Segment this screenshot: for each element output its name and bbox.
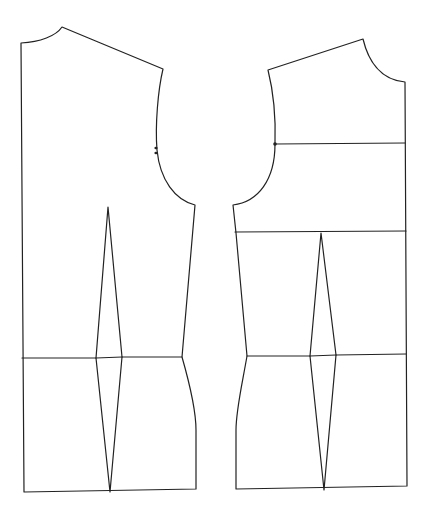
background [0,0,428,508]
pattern-canvas [0,0,428,508]
notch-mark [154,147,157,149]
front-armhole-dot [273,142,277,146]
point-dot [273,142,277,146]
notch-mark [154,152,157,154]
pattern-diagram [0,0,428,508]
